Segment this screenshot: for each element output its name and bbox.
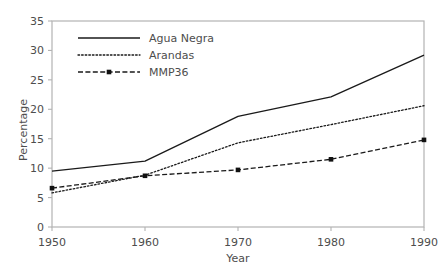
- x-tick-label: 1970: [224, 236, 252, 249]
- x-tick-label: 1960: [131, 236, 159, 249]
- series-marker-mmp36: [236, 168, 241, 173]
- legend-label-agua-negra: Agua Negra: [149, 32, 214, 45]
- y-tick-label: 5: [37, 192, 44, 205]
- y-axis-title: Percentage: [17, 99, 30, 161]
- y-tick-label: 25: [30, 74, 44, 87]
- legend-label-mmp36: MMP36: [149, 66, 189, 79]
- series-marker-mmp36: [50, 186, 55, 191]
- y-tick-label: 10: [30, 162, 44, 175]
- y-axis-tick-labels: 05101520253035: [30, 15, 44, 234]
- y-tick-label: 35: [30, 15, 44, 28]
- series-layer: [50, 55, 427, 193]
- legend-marker-mmp36: [107, 70, 112, 75]
- x-axis-title: Year: [225, 252, 250, 265]
- chart-legend: Agua NegraArandasMMP36: [78, 32, 214, 79]
- series-marker-mmp36: [329, 157, 334, 162]
- plot-border: [52, 21, 424, 227]
- series-line-mmp36: [52, 140, 424, 188]
- line-chart: 05101520253035 19501960197019801990 Agua…: [0, 0, 444, 267]
- legend-label-arandas: Arandas: [149, 49, 194, 62]
- y-tick-label: 20: [30, 103, 44, 116]
- series-marker-mmp36: [422, 138, 427, 143]
- plot-frame: [52, 21, 424, 227]
- x-axis-tick-labels: 19501960197019801990: [38, 236, 438, 249]
- x-tick-label: 1980: [317, 236, 345, 249]
- series-marker-mmp36: [143, 173, 148, 178]
- x-tick-label: 1950: [38, 236, 66, 249]
- series-line-arandas: [52, 106, 424, 193]
- x-axis-ticks: [52, 227, 424, 231]
- x-tick-label: 1990: [410, 236, 438, 249]
- y-tick-label: 15: [30, 133, 44, 146]
- y-tick-label: 30: [30, 44, 44, 57]
- y-tick-label: 0: [37, 221, 44, 234]
- chart-canvas: 05101520253035 19501960197019801990 Agua…: [0, 0, 444, 267]
